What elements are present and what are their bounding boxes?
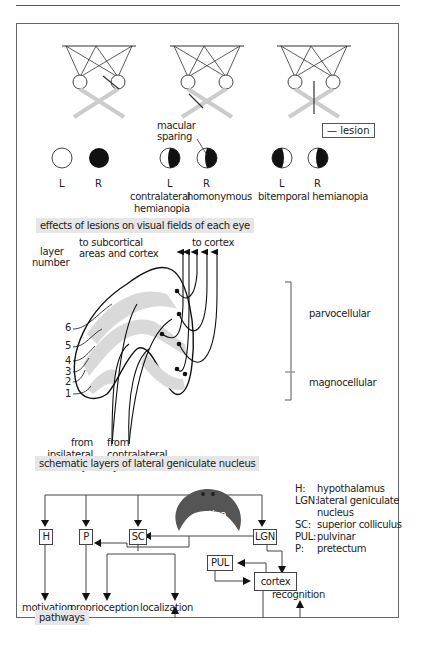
macular-label-2: sparing bbox=[157, 131, 192, 143]
caption-hemianopia: hemianopia bbox=[134, 203, 190, 215]
node-sc: SC bbox=[129, 529, 147, 545]
node-pul: PUL bbox=[207, 555, 233, 571]
panel2-caption: schematic layers of lateral geniculate n… bbox=[35, 456, 259, 471]
top-rule bbox=[16, 5, 400, 6]
key-desc-sc: superior colliculus bbox=[317, 519, 402, 531]
magnocellular-label: magnocellular bbox=[309, 377, 376, 389]
field-label-r2: R bbox=[203, 178, 210, 190]
key-desc-h: hypothalamus bbox=[317, 483, 385, 495]
parvocellular-label: parvocellular bbox=[309, 308, 370, 320]
output-recognition: recognition bbox=[272, 589, 325, 601]
panel1-caption: effects of lesions on visual fields of e… bbox=[36, 218, 254, 233]
to-cortex: to cortex bbox=[192, 237, 234, 249]
field-label-l2: L bbox=[167, 178, 172, 190]
layer-1: 1 bbox=[65, 388, 71, 400]
from-contra-1: from bbox=[107, 437, 129, 449]
to-subcortical-2: areas and cortex bbox=[79, 248, 158, 260]
key-abbr-p: P: bbox=[295, 543, 304, 555]
output-localization: localization bbox=[140, 602, 193, 614]
key-abbr-sc: SC: bbox=[295, 519, 311, 531]
field-label-l1: L bbox=[59, 178, 64, 190]
panel-lgn-layers: layer number 6 5 4 3 2 1 to subcortical … bbox=[16, 234, 399, 484]
key-desc-pul: pulvinar bbox=[317, 531, 355, 543]
caption-bitemporal: bitemporal hemianopia bbox=[258, 191, 368, 203]
key-abbr-h: H: bbox=[295, 483, 305, 495]
key-desc-lgn-2: nucleus bbox=[317, 507, 354, 519]
legend-label: lesion bbox=[340, 125, 369, 136]
panel-visual-field-lesions: — lesion macular sparing L R L R L R con… bbox=[16, 23, 399, 235]
field-label-r3: R bbox=[314, 178, 321, 190]
layer-2: 2 bbox=[65, 376, 71, 388]
field-label-l3: L bbox=[279, 178, 284, 190]
retina-label: retina bbox=[199, 509, 226, 521]
caption-homonymous: homonymous bbox=[187, 191, 252, 203]
field-label-r1: R bbox=[95, 178, 102, 190]
panel-pathways: retina H P SC LGN PUL cortex motivation … bbox=[16, 483, 399, 618]
from-ipsi-1: from bbox=[47, 437, 93, 449]
node-h: H bbox=[39, 529, 53, 545]
legend-line-icon: — bbox=[327, 125, 337, 136]
key-abbr-pul: PUL: bbox=[295, 531, 316, 543]
node-p: P bbox=[79, 529, 93, 545]
key-desc-p: pretectum bbox=[317, 543, 366, 555]
node-lgn: LGN bbox=[253, 529, 277, 545]
legend-box: — lesion bbox=[322, 123, 375, 138]
panel3-caption: pathways bbox=[35, 610, 89, 625]
layer-6: 6 bbox=[65, 322, 71, 334]
key-abbr-lgn: LGN: bbox=[295, 495, 318, 507]
layer-5: 5 bbox=[65, 340, 71, 352]
caption-contralateral: contralateral bbox=[130, 191, 190, 203]
key-desc-lgn: lateral geniculate bbox=[317, 495, 399, 507]
layer-heading-2: number bbox=[32, 257, 69, 269]
